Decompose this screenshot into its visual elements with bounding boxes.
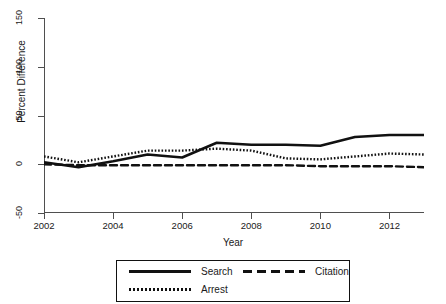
plot-area — [44, 18, 424, 213]
legend-label-arrest: Arrest — [201, 282, 228, 298]
series-canvas — [44, 18, 424, 213]
x-tick — [113, 213, 114, 219]
series-line-search — [44, 135, 424, 167]
x-tick — [320, 213, 321, 219]
x-tick-label: 2002 — [24, 221, 64, 231]
y-tick-label-text: -50 — [15, 202, 24, 224]
solid-line-key — [129, 270, 191, 273]
x-tick — [182, 213, 183, 219]
x-tick-label: 2010 — [300, 221, 340, 231]
legend-item-citation[interactable]: Citation — [243, 264, 343, 280]
series-line-citation — [44, 164, 424, 167]
legend-item-arrest[interactable]: Arrest — [129, 282, 229, 298]
x-tick — [389, 213, 390, 219]
chart-figure: 150100500-50 200220042006200820102012 Pe… — [0, 0, 446, 304]
x-tick — [251, 213, 252, 219]
legend-label-search: Search — [201, 264, 233, 280]
y-tick-label: -50 — [8, 208, 30, 217]
series-line-arrest — [44, 149, 424, 163]
x-tick-label: 2012 — [369, 221, 409, 231]
y-axis-title: Percent Difference — [16, 17, 27, 147]
y-tick-label-text: 0 — [15, 153, 24, 175]
x-axis-title: Year — [163, 237, 303, 248]
legend-item-search[interactable]: Search — [129, 264, 229, 280]
y-tick-label: 0 — [8, 159, 30, 168]
legend-label-citation: Citation — [315, 264, 349, 280]
dashed-line-key — [243, 270, 305, 273]
legend-box: Search Citation Arrest — [116, 260, 350, 302]
x-tick-label: 2004 — [93, 221, 133, 231]
dotted-line-key — [129, 288, 191, 291]
x-tick — [44, 213, 45, 219]
x-tick-label: 2006 — [162, 221, 202, 231]
x-tick-label: 2008 — [231, 221, 271, 231]
